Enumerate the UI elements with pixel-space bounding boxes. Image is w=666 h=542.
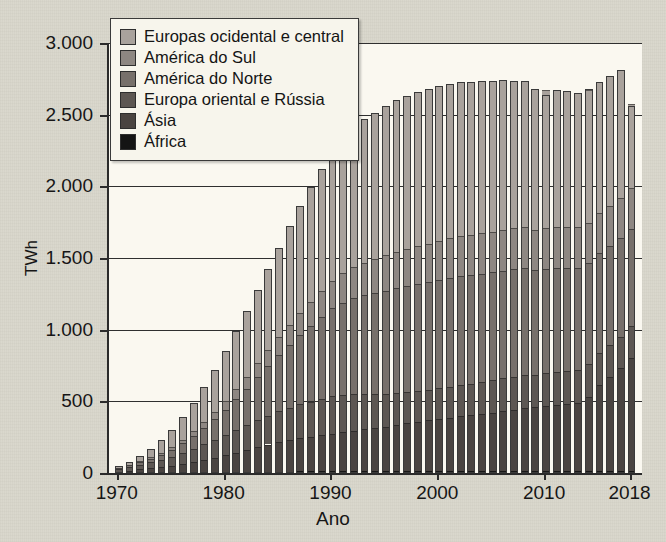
bar-segment [158,440,166,452]
bar-segment [211,458,219,472]
bar-segment [286,440,294,471]
legend-item-label: América do Norte [144,69,272,88]
bar-segment [115,469,123,472]
bar-segment [264,416,272,445]
bar-segment [510,410,518,472]
bar-segment [350,431,358,471]
y-axis-tick-label: 1.000 [45,319,93,341]
bar [329,152,337,473]
legend-item[interactable]: África [120,131,344,152]
bar-segment [489,81,497,232]
legend-swatch-icon [120,113,136,129]
bar-segment [435,86,443,241]
bar-segment [393,288,401,393]
bar-segment [168,466,176,473]
bar-segment [222,435,230,455]
bar-segment [606,206,614,246]
bar-segment [617,70,625,198]
bar-segment [158,467,166,472]
bar-segment [286,226,294,324]
bar-segment [521,81,529,227]
legend-item[interactable]: Europa oriental e Rússia [120,89,344,110]
bar-segment [457,416,465,471]
legend-item[interactable]: Europas ocidental e central [120,26,344,47]
bar-segment [489,272,497,380]
bar-segment [179,417,187,440]
bar-segment [339,303,347,395]
y-axis-tick-label: 500 [61,390,93,412]
bar [628,106,636,473]
bar-segment [329,396,337,434]
bar-segment [446,84,454,239]
bar-segment [563,268,571,371]
bar-segment [275,248,283,337]
bar-segment [126,462,134,465]
bar-segment [158,460,166,467]
bar-segment [457,471,465,473]
bar-segment [254,420,262,447]
bar-segment [585,397,593,472]
bar [425,89,433,473]
bar [435,86,443,473]
bar-segment [318,291,326,317]
bar-segment [606,76,614,206]
bar-segment [254,472,262,473]
bar-segment [628,229,636,326]
bar [596,82,604,473]
bar [179,417,187,473]
bar-segment [425,471,433,473]
bar-segment [435,280,443,388]
bar-segment [467,82,475,235]
bar-segment [307,187,315,301]
bar [115,466,123,473]
bar-segment [489,232,497,273]
bar [585,89,593,473]
bar-segment [200,428,208,444]
bar-segment [350,298,358,394]
bar-segment [147,468,155,472]
bar-segment [425,244,433,283]
bar-segment [275,442,283,471]
bar-segment [382,427,390,472]
legend-item[interactable]: América do Norte [120,68,344,89]
bar-segment [478,382,486,414]
bar-segment [628,358,636,471]
bar-segment [286,325,294,345]
bar-segment [435,241,443,280]
bar-segment [296,206,304,312]
legend-item[interactable]: Ásia [120,110,344,131]
bar-segment [414,422,422,471]
bar-segment [446,418,454,472]
bar-segment [606,377,614,472]
bar [617,70,625,473]
bar-segment [147,459,155,462]
bar-segment [467,415,475,471]
bar-segment [596,213,604,253]
bar [467,82,475,473]
bar-segment [190,403,198,432]
bar-segment [361,119,369,262]
bar-segment [286,472,294,473]
y-axis-tick [100,258,109,260]
bar-segment [361,394,369,429]
legend-item-label: Europas ocidental e central [144,27,344,46]
x-axis-tick-label: 2018 [608,482,650,504]
y-axis-tick [100,186,109,188]
legend-item[interactable]: América do Sul [120,47,344,68]
bar-segment [339,395,347,433]
bar-segment [211,472,219,473]
bar-segment [499,378,507,411]
bar-segment [596,82,604,213]
bar-segment [478,414,486,471]
bar-segment [521,408,529,471]
bar-segment [275,411,283,442]
bar-segment [179,443,187,452]
bar [542,95,550,473]
bar-segment [425,89,433,244]
bar-segment [574,403,582,472]
bar-segment [329,281,337,309]
legend-swatch-icon [120,29,136,45]
bar-segment [531,270,539,375]
bar-segment [585,263,593,364]
bar [275,248,283,473]
